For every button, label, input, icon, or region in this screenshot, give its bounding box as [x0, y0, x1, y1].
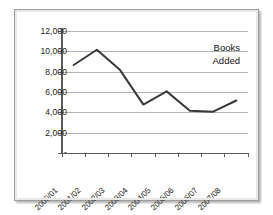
chart-plot-container: 12,000 10,000 8,000 6,000 4,000 2,000 - … — [15, 10, 258, 200]
x-axis-labels: 2000/01 2001/02 2002/03 2003/04 2004/05 … — [15, 10, 258, 200]
chart-frame: 12,000 10,000 8,000 6,000 4,000 2,000 - … — [14, 9, 259, 201]
series-annotation-line-2: Added — [135, 54, 240, 67]
series-annotation-books-added: Books Added — [135, 41, 240, 67]
series-annotation-line-1: Books — [135, 41, 240, 54]
